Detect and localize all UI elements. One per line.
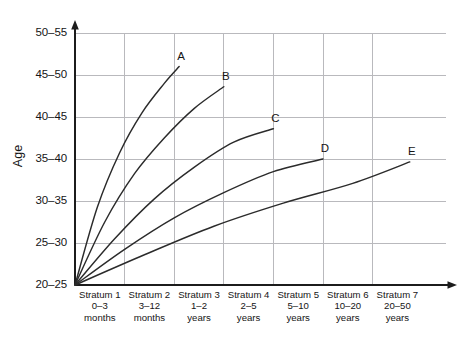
series-curve-b <box>75 87 224 285</box>
x-axis-tick-labels: Stratum 10–3monthsStratum 23–12monthsStr… <box>79 289 418 323</box>
x-tick-label-line3: months <box>134 312 166 323</box>
series-label-e: E <box>408 145 416 157</box>
axes <box>71 20 457 289</box>
x-tick-label-line3: months <box>84 312 116 323</box>
y-tick-label: 30–35 <box>36 194 67 206</box>
y-tick-label: 35–40 <box>36 152 67 164</box>
x-tick-label-line3: years <box>386 312 410 323</box>
x-tick-label-line3: years <box>187 312 211 323</box>
series-curves <box>75 67 410 285</box>
x-tick-label-line2: 0–3 <box>92 300 108 311</box>
x-axis-arrow-icon <box>448 281 458 289</box>
x-tick-label-line2: 5–10 <box>288 300 309 311</box>
y-tick-label: 25–30 <box>36 236 67 248</box>
series-end-labels: ABCDE <box>177 50 416 157</box>
x-tick-label-line1: Stratum 5 <box>277 289 319 300</box>
series-label-b: B <box>222 70 230 82</box>
x-tick-label-line1: Stratum 2 <box>129 289 171 300</box>
age-strata-line-chart: 20–2525–3030–3535–4040–4545–5050–55 Stra… <box>0 0 476 338</box>
x-tick-label-line1: Stratum 7 <box>377 289 419 300</box>
horizontal-gridlines <box>75 33 446 243</box>
x-tick-label-line2: 10–20 <box>334 300 361 311</box>
x-tick-label-line2: 20–50 <box>384 300 411 311</box>
y-axis-tick-labels: 20–2525–3030–3535–4040–4545–5050–55 <box>36 26 67 290</box>
y-tick-label: 40–45 <box>36 110 67 122</box>
x-tick-label-line3: years <box>237 312 261 323</box>
x-tick-label-line1: Stratum 1 <box>79 289 121 300</box>
y-axis-arrow-icon <box>71 20 79 30</box>
series-curve-e <box>75 162 410 285</box>
series-curve-d <box>75 159 323 285</box>
x-tick-label-line2: 3–12 <box>139 300 160 311</box>
x-tick-label-line1: Stratum 3 <box>178 289 220 300</box>
x-tick-label-line2: 1–2 <box>191 300 207 311</box>
series-label-a: A <box>177 50 185 62</box>
x-tick-label-line1: Stratum 6 <box>327 289 369 300</box>
x-tick-label-line2: 2–5 <box>241 300 257 311</box>
series-label-d: D <box>321 142 329 154</box>
x-tick-label-line3: years <box>286 312 310 323</box>
y-tick-label: 20–25 <box>36 278 67 290</box>
series-label-c: C <box>271 112 279 124</box>
chart-container: 20–2525–3030–3535–4040–4545–5050–55 Stra… <box>0 0 476 338</box>
y-axis-title: Age <box>11 145 25 167</box>
x-tick-label-line3: years <box>336 312 360 323</box>
y-tick-label: 50–55 <box>36 26 67 38</box>
x-tick-label-line1: Stratum 4 <box>228 289 270 300</box>
y-tick-label: 45–50 <box>36 68 67 80</box>
